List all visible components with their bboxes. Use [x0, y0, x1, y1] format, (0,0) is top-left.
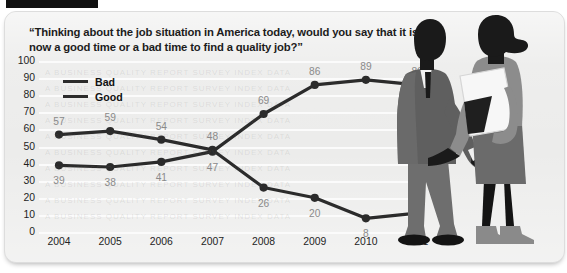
data-label-good: 59: [104, 112, 115, 123]
legend-swatch-bad: [63, 80, 88, 84]
data-label-bad: 69: [258, 95, 269, 106]
data-label-bad: 38: [104, 177, 115, 188]
background-watermark: A BUSINESS QUALITY REPORT SURVEY INDEX D…: [45, 116, 291, 125]
data-label-good: 54: [156, 120, 167, 131]
man-jacket-shade: [397, 72, 418, 164]
data-label-good: 57: [53, 115, 64, 126]
legend-item-bad: Bad: [63, 74, 123, 89]
background-watermark: A BUSINESS QUALITY REPORT SURVEY INDEX D…: [45, 148, 291, 157]
data-point-good: [311, 194, 319, 202]
data-label-good: 20: [309, 207, 320, 218]
background-watermark: A BUSINESS QUALITY REPORT SURVEY INDEX D…: [45, 164, 291, 173]
background-watermark: A BUSINESS QUALITY REPORT SURVEY INDEX D…: [45, 132, 291, 141]
legend-item-good: Good: [63, 89, 123, 104]
man-trousers: [404, 160, 458, 238]
man-shoe-right: [432, 235, 464, 246]
data-label-good: 26: [258, 197, 269, 208]
legend-label-bad: Bad: [95, 76, 115, 88]
data-label-bad: 47: [207, 161, 218, 172]
woman-head-hair: [478, 15, 528, 57]
data-label-good: 48: [207, 130, 218, 141]
chart-legend: Bad Good: [63, 74, 123, 104]
woman-leg-right: [504, 180, 514, 226]
background-watermark: A BUSINESS QUALITY REPORT SURVEY INDEX D…: [45, 212, 291, 221]
man-tie: [425, 72, 431, 98]
background-watermark: A BUSINESS QUALITY REPORT SURVEY INDEX D…: [45, 196, 291, 205]
infographic-stage: “Thinking about the job situation in Ame…: [0, 0, 567, 273]
data-label-bad: 39: [53, 175, 64, 186]
page-title: “Thinking about the job situation in Ame…: [29, 25, 429, 55]
data-point-bad: [311, 81, 319, 89]
background-watermark: A BUSINESS QUALITY REPORT SURVEY INDEX D…: [45, 180, 291, 189]
top-black-tab: [6, 0, 98, 8]
infographic-card: “Thinking about the job situation in Ame…: [4, 11, 565, 263]
man-shoe-left: [398, 235, 430, 246]
woman-leg-left: [482, 180, 496, 226]
data-label-bad: 41: [156, 171, 167, 182]
woman-shoe-right: [500, 226, 534, 244]
legend-label-good: Good: [95, 91, 123, 103]
legend-swatch-good: [63, 95, 88, 99]
data-label-bad: 86: [309, 65, 320, 76]
